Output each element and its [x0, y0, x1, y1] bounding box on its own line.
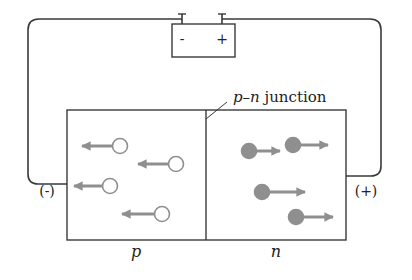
battery-plus-label: +: [216, 31, 228, 47]
electron-icon: [286, 138, 301, 153]
pn-junction-diagram: - + p–n junction (-) (+) p n: [0, 0, 412, 280]
electron-icon: [242, 144, 257, 159]
electron-icon: [289, 210, 304, 225]
hole-icon: [169, 157, 184, 172]
battery: - +: [172, 14, 235, 57]
n-region-label: n: [271, 242, 281, 261]
hole-icon: [113, 139, 128, 154]
battery-minus-label: -: [180, 31, 185, 47]
right-terminal-label: (+): [355, 183, 378, 199]
hole-icon: [155, 207, 170, 222]
hole-icon: [103, 179, 118, 194]
left-terminal-label: (-): [39, 183, 55, 199]
p-region-label: p: [131, 242, 141, 261]
electron-icon: [255, 185, 270, 200]
junction-label: p–n junction: [233, 88, 327, 106]
